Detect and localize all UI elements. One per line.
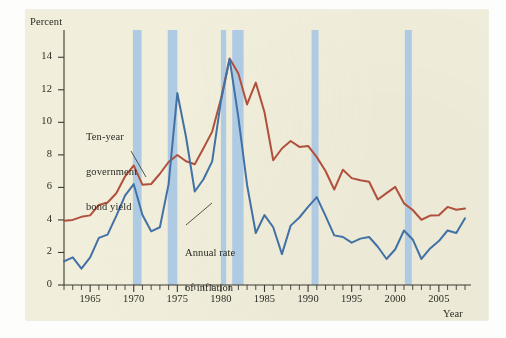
annotation-inflation: Annual rate of inflation	[185, 224, 235, 317]
y-tick-label: 14	[28, 50, 52, 61]
y-tick-label: 4	[28, 213, 52, 224]
annotation-inflation-line2: of inflation	[185, 282, 235, 294]
x-tick-label: 2005	[419, 293, 459, 304]
y-tick-marks	[58, 57, 64, 285]
x-tick-label: 1965	[70, 293, 110, 304]
x-tick-label: 1995	[332, 293, 372, 304]
y-tick-label: 0	[28, 278, 52, 289]
annotation-bond-yield-line3: bond yield	[86, 201, 137, 213]
annotation-bond-yield-line1: Ten-year	[86, 131, 137, 143]
recession-band	[168, 30, 178, 285]
y-tick-label: 10	[28, 115, 52, 126]
y-tick-label: 6	[28, 180, 52, 191]
x-tick-marks	[64, 285, 465, 292]
annotation-inflation-line1: Annual rate	[185, 247, 235, 259]
chart-canvas	[0, 0, 506, 338]
y-axis-title: Percent	[30, 16, 62, 27]
figure-root: 02468101214 1965197019751980198519901995…	[0, 0, 506, 338]
x-tick-label: 1990	[288, 293, 328, 304]
x-tick-label: 2000	[375, 293, 415, 304]
y-tick-label: 12	[28, 83, 52, 94]
annotation-bond-yield-line2: government	[86, 166, 137, 178]
x-tick-label: 1970	[114, 293, 154, 304]
leader-line-inflation	[186, 203, 212, 225]
annotation-bond-yield: Ten-year government bond yield	[86, 108, 137, 236]
x-axis-title: Year	[443, 308, 463, 319]
y-tick-label: 2	[28, 245, 52, 256]
y-tick-label: 8	[28, 148, 52, 159]
x-tick-label: 1985	[245, 293, 285, 304]
recession-band	[405, 30, 412, 285]
